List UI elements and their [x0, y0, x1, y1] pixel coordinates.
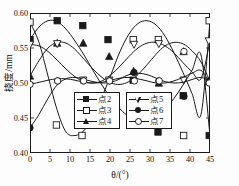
x-tick-label: 45 [201, 156, 219, 164]
legend-label: 点7 [149, 116, 163, 127]
legend-label: 点4 [97, 116, 111, 127]
legend-entry[interactable]: 点6 [129, 105, 169, 116]
plot-area: 点2点3点4 点5点6点7 [30, 13, 210, 153]
filled-circle-icon [129, 105, 149, 116]
figure: 挠度/mm 0.60 0.55 0.50 0.45 0.40 0 5 10 15… [0, 0, 239, 186]
x-tick-label: 40 [181, 156, 199, 164]
y-tick-label: 0.50 [2, 80, 28, 88]
chart-canvas [30, 13, 210, 153]
x-tick-label: 15 [81, 156, 99, 164]
legend-entry[interactable]: 点3 [77, 105, 117, 116]
open-square-icon [77, 105, 97, 116]
open-down-triangle-icon [129, 94, 149, 105]
legend-entry[interactable]: 点7 [129, 116, 169, 127]
filled-square-icon [77, 94, 97, 105]
legend-label: 点6 [149, 105, 163, 116]
open-circle-icon [129, 116, 149, 127]
y-tick-label: 0.55 [2, 45, 28, 53]
x-tick-label: 0 [21, 156, 39, 164]
filled-triangle-icon [77, 116, 97, 127]
y-tick-label: 0.60 [2, 10, 28, 18]
legend-entry[interactable]: 点4 [77, 116, 117, 127]
legend-entry[interactable]: 点5 [129, 94, 169, 105]
x-axis-label: θ/(°) [30, 170, 210, 180]
legend-label: 点2 [97, 94, 111, 105]
x-tick-label: 35 [161, 156, 179, 164]
x-tick-label: 20 [101, 156, 119, 164]
legend-entry[interactable]: 点2 [77, 94, 117, 105]
legend-box-2[interactable]: 点5点6点7 [126, 92, 172, 129]
x-tick-label: 5 [41, 156, 59, 164]
legend-label: 点5 [149, 94, 163, 105]
x-tick-label: 10 [61, 156, 79, 164]
legend-box-1[interactable]: 点2点3点4 [74, 92, 120, 129]
x-tick-label: 25 [121, 156, 139, 164]
legend-label: 点3 [97, 105, 111, 116]
x-tick-label: 30 [141, 156, 159, 164]
y-tick-label: 0.45 [2, 115, 28, 123]
